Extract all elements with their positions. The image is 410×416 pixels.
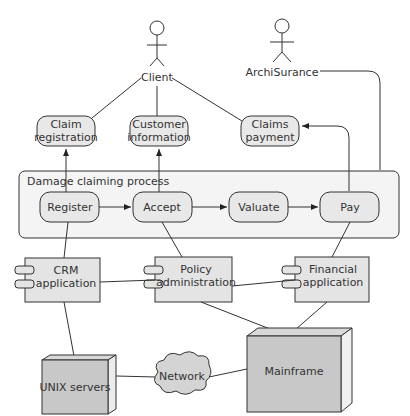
svg-text:Pay: Pay [340, 201, 360, 214]
node-mainframe[interactable]: Mainframe [247, 328, 352, 412]
service-claims-payment[interactable]: Claims payment [241, 116, 299, 146]
svg-text:Valuate: Valuate [238, 201, 279, 214]
svg-text:application: application [303, 276, 364, 289]
svg-text:registration: registration [34, 131, 97, 144]
svg-text:Customer: Customer [132, 118, 186, 131]
app-financial[interactable]: Financial application [282, 257, 369, 302]
svg-text:administration: administration [156, 276, 236, 289]
client-actor [147, 21, 167, 66]
svg-text:Policy: Policy [180, 263, 212, 276]
svg-text:Claim: Claim [50, 118, 81, 131]
step-valuate[interactable]: Valuate [229, 192, 288, 222]
svg-text:Claims: Claims [252, 118, 289, 131]
app-crm[interactable]: CRM application [15, 258, 100, 302]
svg-text:information: information [127, 131, 191, 144]
archisurance-label: ArchiSurance [246, 66, 319, 79]
svg-text:Accept: Accept [143, 201, 181, 214]
app-policy-administration[interactable]: Policy administration [144, 257, 236, 302]
service-claim-registration[interactable]: Claim registration [34, 116, 97, 146]
svg-text:Network: Network [159, 370, 206, 383]
service-customer-information[interactable]: Customer information [127, 116, 191, 146]
svg-text:application: application [36, 277, 97, 290]
svg-text:Financial: Financial [309, 263, 357, 276]
archisurance-actor [270, 19, 294, 62]
step-register[interactable]: Register [40, 192, 99, 222]
svg-text:Mainframe: Mainframe [265, 365, 324, 378]
svg-text:CRM: CRM [54, 264, 79, 277]
svg-text:Damage claiming process: Damage claiming process [27, 175, 170, 188]
architecture-diagram: Client ArchiSurance Claim registration C… [0, 0, 410, 416]
step-accept[interactable]: Accept [133, 192, 192, 222]
client-label: Client [141, 71, 174, 84]
svg-text:payment: payment [245, 131, 295, 144]
svg-text:UNIX servers: UNIX servers [39, 381, 110, 394]
network-cloud[interactable]: Network [154, 352, 210, 395]
svg-text:Register: Register [47, 201, 93, 214]
node-unix-servers[interactable]: UNIX servers [39, 355, 116, 414]
step-pay[interactable]: Pay [320, 192, 379, 222]
